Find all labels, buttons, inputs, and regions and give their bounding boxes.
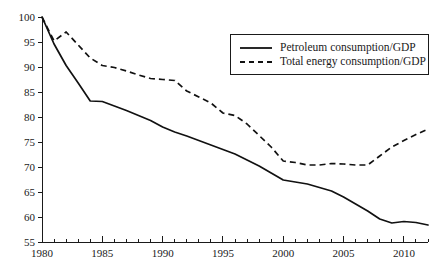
y-tick-label: 65 — [24, 186, 36, 198]
x-tick-label: 1995 — [212, 247, 235, 259]
y-tick-label: 95 — [24, 36, 36, 48]
y-axis: 556065707580859095100 — [19, 11, 43, 248]
x-tick-label: 2000 — [272, 247, 295, 259]
y-tick-label: 60 — [24, 211, 36, 223]
line-chart: 556065707580859095100 198019851990199520… — [0, 0, 441, 280]
y-tick-label: 85 — [24, 86, 36, 98]
chart-legend: Petroleum consumption/GDP Total energy c… — [230, 34, 428, 74]
legend-label-petroleum: Petroleum consumption/GDP — [280, 41, 416, 54]
x-axis: 1980198519901995200020052010 — [31, 236, 428, 259]
x-tick-group: 1980198519901995200020052010 — [31, 236, 415, 259]
y-tick-label: 75 — [24, 136, 36, 148]
chart-container: 556065707580859095100 198019851990199520… — [0, 0, 441, 280]
y-tick-label: 80 — [24, 111, 36, 123]
x-tick-minor-group — [54, 239, 428, 243]
y-tick-label: 90 — [24, 61, 36, 73]
legend-label-total-energy: Total energy consumption/GDP — [280, 55, 426, 68]
x-tick-label: 2010 — [393, 247, 416, 259]
x-tick-label: 2005 — [333, 247, 356, 259]
y-tick-label: 100 — [19, 11, 36, 23]
legend-box — [230, 34, 428, 74]
y-tick-group: 556065707580859095100 — [19, 11, 43, 248]
y-tick-label: 70 — [24, 161, 36, 173]
x-tick-label: 1980 — [31, 247, 54, 259]
x-tick-label: 1985 — [91, 247, 114, 259]
x-tick-label: 1990 — [152, 247, 175, 259]
